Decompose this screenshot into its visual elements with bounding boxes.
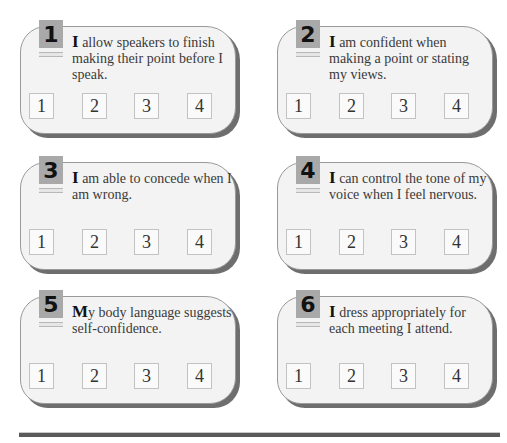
- question-number-badge: 1: [39, 20, 63, 48]
- question-statement: I can control the tone of my voice when …: [329, 170, 489, 203]
- rating-option-1[interactable]: 1: [29, 229, 54, 255]
- rating-option-2[interactable]: 2: [339, 363, 364, 389]
- question-statement: My body language suggests self-confidenc…: [72, 304, 232, 337]
- question-card-6: 6 I dress appropriately for each meeting…: [277, 296, 493, 404]
- rating-option-2[interactable]: 2: [82, 363, 107, 389]
- footer-divider: [19, 432, 500, 437]
- rating-scale: 1 2 3 4: [286, 229, 486, 255]
- rating-scale: 1 2 3 4: [286, 93, 486, 119]
- question-statement: I am able to concede when I am wrong.: [72, 170, 232, 203]
- rating-option-1[interactable]: 1: [286, 229, 311, 255]
- question-card-2: 2 I am confident when making a point or …: [277, 26, 493, 134]
- question-statement: I allow speakers to finish making their …: [72, 34, 232, 83]
- rating-option-3[interactable]: 3: [391, 363, 416, 389]
- question-card-5: 5 My body language suggests self-confide…: [20, 296, 236, 404]
- rating-option-4[interactable]: 4: [187, 229, 212, 255]
- rating-option-3[interactable]: 3: [391, 229, 416, 255]
- rating-option-1[interactable]: 1: [29, 363, 54, 389]
- rating-option-3[interactable]: 3: [134, 229, 159, 255]
- question-statement: I dress appropriately for each meeting I…: [329, 304, 489, 337]
- rating-option-1[interactable]: 1: [286, 93, 311, 119]
- rating-option-4[interactable]: 4: [444, 363, 469, 389]
- badge-underline: [39, 52, 63, 57]
- question-number-badge: 5: [39, 290, 63, 318]
- badge-underline: [39, 322, 63, 327]
- question-card-3: 3 I am able to concede when I am wrong. …: [20, 162, 236, 270]
- badge-underline: [39, 188, 63, 193]
- rating-option-2[interactable]: 2: [339, 93, 364, 119]
- rating-option-3[interactable]: 3: [134, 93, 159, 119]
- rating-option-2[interactable]: 2: [82, 229, 107, 255]
- rating-option-4[interactable]: 4: [187, 93, 212, 119]
- rating-option-2[interactable]: 2: [339, 229, 364, 255]
- rating-option-3[interactable]: 3: [391, 93, 416, 119]
- question-number-badge: 3: [39, 156, 63, 184]
- question-number-badge: 4: [296, 156, 320, 184]
- rating-option-1[interactable]: 1: [286, 363, 311, 389]
- badge-underline: [296, 52, 320, 57]
- badge-underline: [296, 188, 320, 193]
- badge-underline: [296, 322, 320, 327]
- question-card-1: 1 I allow speakers to finish making thei…: [20, 26, 236, 134]
- rating-option-4[interactable]: 4: [444, 93, 469, 119]
- rating-scale: 1 2 3 4: [29, 93, 229, 119]
- question-statement: I am confident when making a point or st…: [329, 34, 489, 83]
- question-number-badge: 2: [296, 20, 320, 48]
- rating-option-4[interactable]: 4: [187, 363, 212, 389]
- rating-option-2[interactable]: 2: [82, 93, 107, 119]
- rating-option-1[interactable]: 1: [29, 93, 54, 119]
- question-card-4: 4 I can control the tone of my voice whe…: [277, 162, 493, 270]
- question-number-badge: 6: [296, 290, 320, 318]
- rating-option-4[interactable]: 4: [444, 229, 469, 255]
- rating-scale: 1 2 3 4: [286, 363, 486, 389]
- rating-option-3[interactable]: 3: [134, 363, 159, 389]
- rating-scale: 1 2 3 4: [29, 229, 229, 255]
- rating-scale: 1 2 3 4: [29, 363, 229, 389]
